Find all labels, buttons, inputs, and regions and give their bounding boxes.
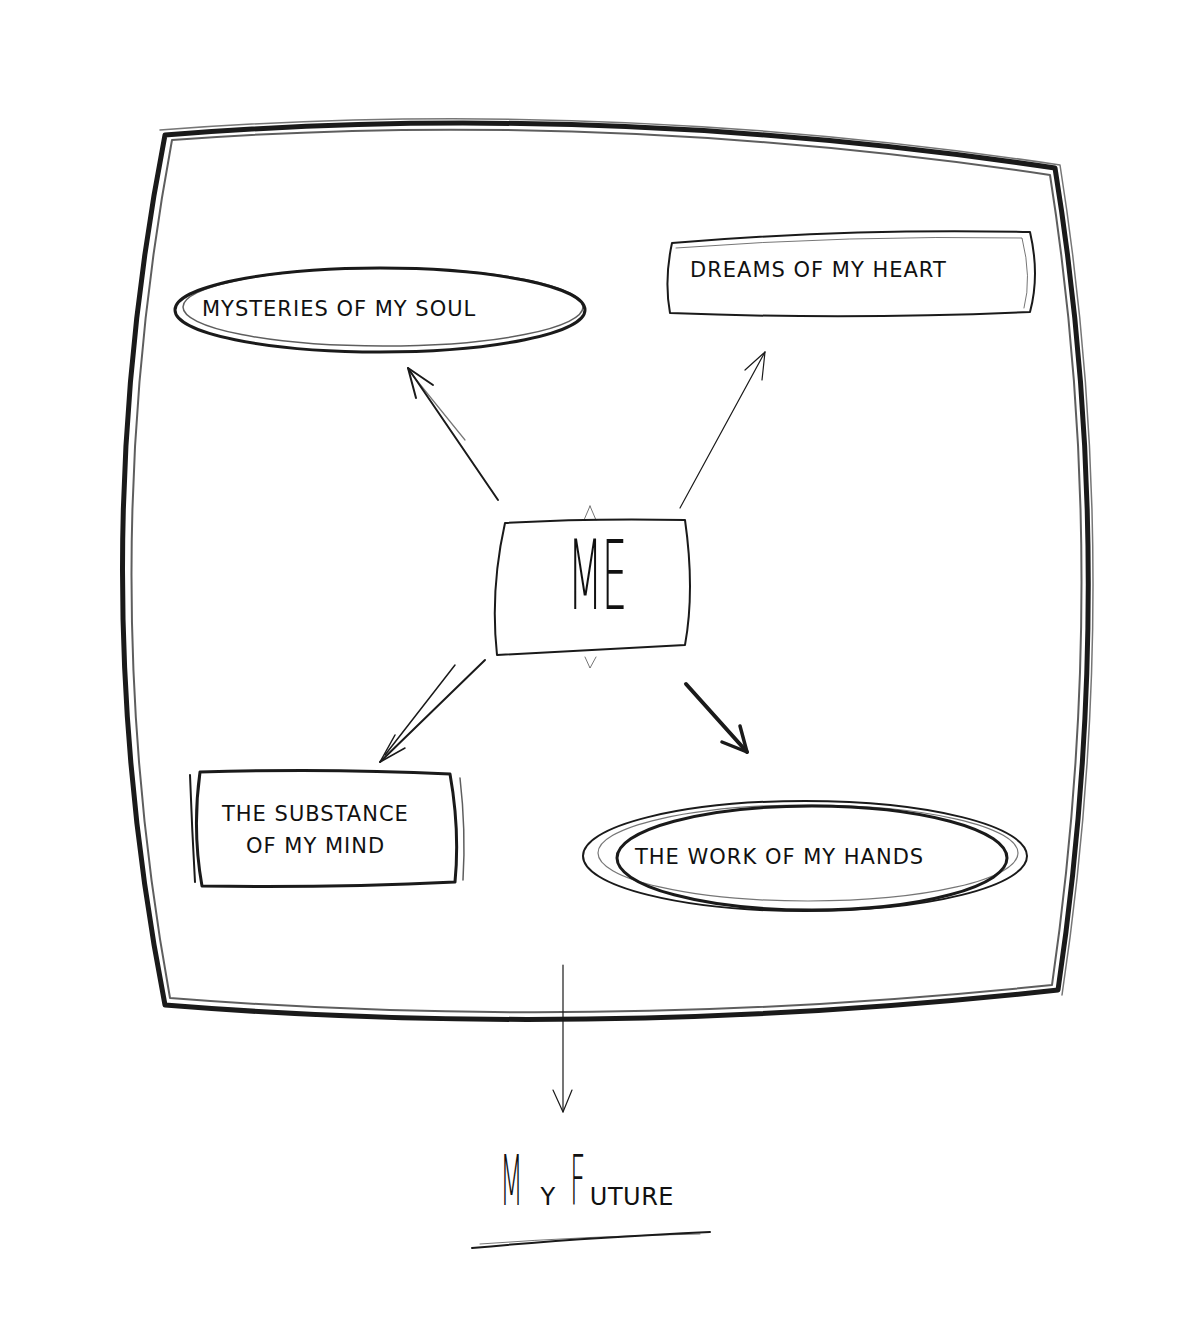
arrow-to-mind: [380, 660, 485, 762]
diagram-canvas: [0, 0, 1178, 1322]
arrow-to-hands: [686, 684, 747, 752]
future-uture: UTURE: [590, 1183, 674, 1211]
future-underline: [472, 1232, 710, 1248]
future-y: Y: [540, 1183, 555, 1211]
node-mind-label-line2: OF MY MIND: [246, 834, 385, 858]
arrow-to-future: [553, 965, 572, 1112]
center-me-label: ME: [568, 520, 623, 632]
outcome-my-future: MYFUTURE: [500, 1140, 674, 1222]
node-heart-label: DREAMS OF MY HEART: [690, 258, 947, 282]
arrow-to-soul: [408, 368, 498, 500]
future-m: M: [500, 1140, 523, 1222]
arrow-to-heart: [680, 352, 765, 508]
node-soul-label: MYSTERIES OF MY SOUL: [202, 297, 476, 321]
node-mind-label-line1: THE SUBSTANCE: [222, 802, 409, 826]
node-hands-label: THE WORK OF MY HANDS: [635, 845, 924, 869]
node-mind-shape: [190, 770, 464, 886]
future-f: F: [570, 1140, 585, 1222]
